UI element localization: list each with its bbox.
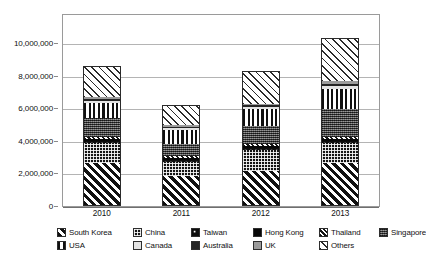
legend-label: USA (69, 241, 85, 250)
bar-segment-china (163, 162, 199, 177)
bar-segment-singapore (243, 126, 279, 144)
legend-label: Canada (145, 241, 172, 250)
bar-2013 (321, 38, 359, 206)
legend-label: Taiwan (203, 228, 227, 237)
legend-swatch-hong-kong (253, 228, 262, 237)
y-axis-labels: 02,000,0004,000,0006,000,0008,000,00010,… (0, 14, 58, 207)
bar-segment-others (84, 66, 120, 97)
legend-label: China (145, 228, 165, 237)
legend-label: Others (331, 241, 354, 250)
legend-item-hong-kong[interactable]: Hong Kong (253, 228, 304, 237)
legend-swatch-china (133, 228, 142, 237)
bar-segment-others (243, 71, 279, 104)
legend-swatch-australia (191, 241, 200, 250)
y-tick-label: 8,000,000 (18, 71, 53, 80)
legend-swatch-singapore (379, 228, 388, 237)
legend-label: South Korea (69, 228, 112, 237)
y-tick-mark (54, 76, 58, 77)
zero-axis-line (63, 207, 379, 208)
legend-row: USACanadaAustraliaUKOthers (57, 241, 383, 253)
legend-item-china[interactable]: China (133, 228, 165, 237)
bar-2010 (83, 66, 121, 206)
bar-segment-usa (243, 109, 279, 126)
legend-swatch-uk (253, 241, 262, 250)
legend-swatch-usa (57, 241, 66, 250)
y-tick-label: 6,000,000 (18, 104, 53, 113)
bar-segment-singapore (163, 144, 199, 156)
x-tick-label-2012: 2012 (252, 209, 270, 218)
x-tick-label-2010: 2010 (93, 209, 111, 218)
x-tick-label-2013: 2013 (331, 209, 349, 218)
bar-segment-south-korea (243, 171, 279, 205)
bar-segment-china (84, 143, 120, 163)
bar-segment-south-korea (322, 163, 358, 205)
legend-item-usa[interactable]: USA (57, 241, 85, 250)
legend-swatch-taiwan (191, 228, 200, 237)
y-tick-mark (54, 141, 58, 142)
legend-label: Thailand (331, 228, 360, 237)
y-tick-mark (54, 206, 58, 207)
legend-label: Australia (203, 241, 233, 250)
legend-label: Hong Kong (265, 228, 304, 237)
legend-item-south-korea[interactable]: South Korea (57, 228, 112, 237)
y-tick-label: 4,000,000 (18, 136, 53, 145)
legend-item-singapore[interactable]: Singapore (379, 228, 426, 237)
bar-segment-usa (84, 103, 120, 118)
bar-segment-usa (163, 130, 199, 144)
x-axis-labels: 2010201120122013 (62, 209, 380, 225)
legend-label: UK (265, 241, 276, 250)
y-tick-label: 2,000,000 (18, 169, 53, 178)
legend-item-australia[interactable]: Australia (191, 241, 233, 250)
bar-segment-singapore (84, 118, 120, 137)
legend-item-taiwan[interactable]: Taiwan (191, 228, 227, 237)
bar-segment-china (243, 150, 279, 171)
y-tick-mark (54, 173, 58, 174)
y-tick-mark (54, 108, 58, 109)
bar-segment-south-korea (163, 176, 199, 205)
y-tick-label: 10,000,000 (14, 39, 53, 48)
legend-row: South KoreaChinaTaiwanHong KongThailandS… (57, 228, 383, 240)
bar-2011 (162, 105, 200, 206)
bar-2012 (242, 71, 280, 206)
legend-swatch-others (319, 241, 328, 250)
legend-item-others[interactable]: Others (319, 241, 354, 250)
bar-segment-usa (322, 89, 358, 109)
bar-segment-others (322, 38, 358, 81)
bar-segment-china (322, 143, 358, 162)
legend-swatch-south-korea (57, 228, 66, 237)
bar-segment-singapore (322, 109, 358, 137)
bars-layer (62, 14, 380, 207)
legend-item-thailand[interactable]: Thailand (319, 228, 360, 237)
y-tick-mark (54, 43, 58, 44)
bar-segment-south-korea (84, 163, 120, 205)
legend-swatch-canada (133, 241, 142, 250)
legend-label: Singapore (391, 228, 426, 237)
legend-item-canada[interactable]: Canada (133, 241, 172, 250)
bar-segment-others (163, 105, 199, 125)
legend-item-uk[interactable]: UK (253, 241, 276, 250)
chart-legend: South KoreaChinaTaiwanHong KongThailandS… (57, 228, 383, 254)
x-tick-label-2011: 2011 (173, 209, 190, 218)
y-tick-label: 0 (49, 202, 53, 211)
legend-swatch-thailand (319, 228, 328, 237)
